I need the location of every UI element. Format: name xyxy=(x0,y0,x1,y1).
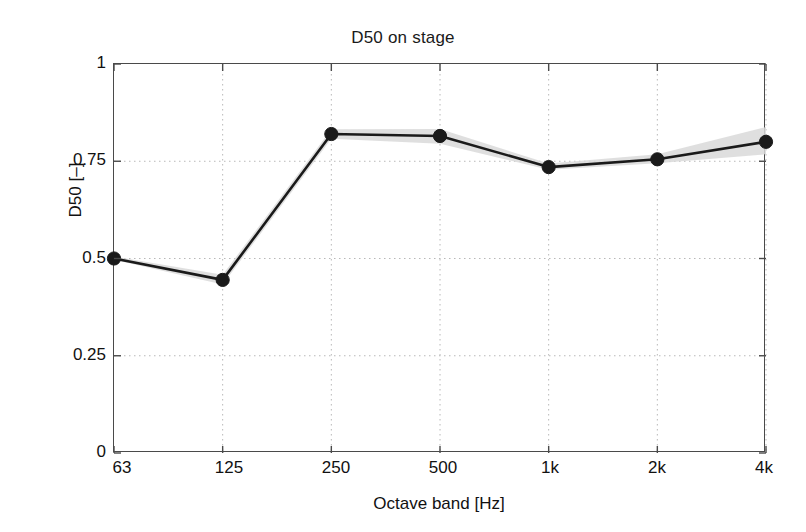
x-axis-tick-labels: 63 125 250 500 1k 2k 4k xyxy=(113,458,765,488)
x-tick-label: 500 xyxy=(429,458,457,478)
x-tick-label: 4k xyxy=(755,458,773,478)
y-tick-label: 0.5 xyxy=(82,248,106,268)
x-tick-label: 250 xyxy=(322,458,350,478)
y-tick-label: 0.25 xyxy=(73,345,106,365)
x-axis-label: Octave band [Hz] xyxy=(113,494,765,514)
chart-title: D50 on stage xyxy=(0,28,806,48)
chart-figure: D50 on stage D50 [–] 1 0.75 0.5 0.25 0 6… xyxy=(0,0,806,532)
axis-tick-marks xyxy=(114,64,766,453)
y-tick-label: 0.75 xyxy=(73,150,106,170)
y-axis-tick-labels: 1 0.75 0.5 0.25 0 xyxy=(38,63,106,452)
x-tick-label: 125 xyxy=(215,458,243,478)
plot-area xyxy=(113,63,765,452)
x-tick-label: 2k xyxy=(648,458,666,478)
x-tick-label: 63 xyxy=(113,458,132,478)
x-tick-label: 1k xyxy=(541,458,559,478)
y-tick-label: 0 xyxy=(97,442,106,462)
y-tick-label: 1 xyxy=(97,53,106,73)
